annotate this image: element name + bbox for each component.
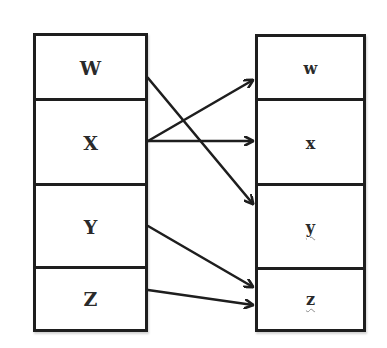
arrow-X-to-w [148, 80, 253, 141]
right-cell-x: x [258, 98, 363, 186]
right-label-w: w [304, 61, 318, 77]
left-label-Y: Y [84, 218, 98, 237]
mapping-diagram: W X Y Z w x y z [0, 0, 387, 348]
right-cell-z: z [258, 267, 363, 329]
right-label-z: z [306, 292, 315, 308]
left-column: W X Y Z [33, 33, 148, 332]
arrow-Y-to-z [148, 226, 253, 287]
left-label-X: X [83, 134, 98, 153]
left-cell-W: W [36, 36, 145, 101]
left-label-W: W [80, 59, 101, 78]
right-label-x: x [306, 136, 316, 152]
left-cell-X: X [36, 98, 145, 186]
right-cell-y: y [258, 183, 363, 270]
left-cell-Z: Z [36, 266, 145, 329]
right-column: w x y z [255, 34, 366, 332]
right-label-y: y [306, 220, 315, 236]
arrow-W-to-y [148, 78, 253, 204]
left-label-Z: Z [84, 290, 98, 309]
arrow-Z-to-z [148, 290, 253, 305]
left-cell-Y: Y [36, 183, 145, 269]
right-cell-w: w [258, 37, 363, 100]
